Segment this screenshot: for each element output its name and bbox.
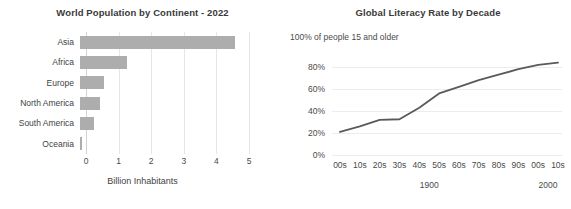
bar-x-tick-label: 4	[214, 156, 219, 166]
line-x-tick-label: 10s	[551, 160, 565, 170]
line-y-tick-label: 0%	[313, 150, 325, 160]
bar-fill	[80, 56, 127, 69]
dual-chart-figure: World Population by Continent - 2022 Asi…	[0, 0, 571, 209]
bar-track	[80, 73, 243, 93]
line-y-tick-label: 40%	[308, 106, 325, 116]
bar-x-tick-label: 1	[116, 156, 121, 166]
bar-fill	[80, 76, 104, 89]
line-chart-panel: Global Literacy Rate by Decade 100% of p…	[285, 0, 571, 209]
line-x-tick-label: 80s	[492, 160, 506, 170]
line-x-tick-label: 90s	[512, 160, 526, 170]
bar-chart-plot-area: AsiaAfricaEuropeNorth AmericaSouth Ameri…	[0, 32, 285, 154]
bar-chart-row: North America	[0, 93, 285, 113]
line-y-tick-label: 60%	[308, 84, 325, 94]
line-x-tick-label: 50s	[432, 160, 446, 170]
bar-x-tick-label: 2	[149, 156, 154, 166]
bar-chart-row: South America	[0, 113, 285, 133]
line-x-tick-label: 00s	[333, 160, 347, 170]
line-chart-y-axis: 80%60%40%20%0%	[285, 45, 329, 155]
line-x-tick-label: 70s	[472, 160, 486, 170]
line-x-tick-label: 10s	[353, 160, 367, 170]
bar-category-label: Europe	[0, 78, 80, 88]
bar-chart-row: Oceania	[0, 134, 285, 154]
bar-chart-x-axis: 012345	[86, 156, 249, 170]
bar-fill	[80, 36, 235, 49]
bar-category-label: Africa	[0, 57, 80, 67]
bar-category-label: Asia	[0, 37, 80, 47]
line-chart-title: Global Literacy Rate by Decade	[285, 7, 571, 18]
line-chart-x-axis: 00s10s20s30s40s50s60s70s80s90s00s10s	[332, 160, 562, 174]
line-x-tick-label: 40s	[412, 160, 426, 170]
line-y-tick-label: 80%	[308, 62, 325, 72]
bar-track	[80, 52, 243, 72]
bar-chart-row: Asia	[0, 32, 285, 52]
bar-track	[80, 113, 243, 133]
bar-track	[80, 32, 243, 52]
line-y-tick-label: 20%	[308, 128, 325, 138]
bar-x-tick-label: 5	[247, 156, 252, 166]
line-x-tick-label: 00s	[531, 160, 545, 170]
bar-chart-row: Africa	[0, 52, 285, 72]
bar-category-label: South America	[0, 118, 80, 128]
line-era-label: 2000	[539, 180, 558, 190]
bar-chart-panel: World Population by Continent - 2022 Asi…	[0, 0, 285, 209]
line-chart-series	[332, 45, 562, 155]
line-gridline	[332, 155, 562, 156]
line-chart-era-labels: 19002000	[332, 180, 562, 194]
line-x-tick-label: 30s	[393, 160, 407, 170]
bar-track	[80, 134, 243, 154]
line-chart-top-axis-label: 100% of people 15 and older	[290, 32, 399, 42]
line-x-tick-label: 20s	[373, 160, 387, 170]
line-x-tick-label: 60s	[452, 160, 466, 170]
bar-category-label: North America	[0, 98, 80, 108]
bar-chart-rows: AsiaAfricaEuropeNorth AmericaSouth Ameri…	[0, 32, 285, 154]
bar-track	[80, 93, 243, 113]
bar-x-tick-label: 0	[84, 156, 89, 166]
bar-category-label: Oceania	[0, 139, 80, 149]
bar-fill	[80, 117, 94, 130]
bar-fill	[80, 97, 100, 110]
bar-chart-title: World Population by Continent - 2022	[0, 7, 285, 18]
line-chart-plot-area	[332, 45, 562, 155]
bar-x-tick-label: 3	[181, 156, 186, 166]
bar-chart-x-axis-label: Billion Inhabitants	[0, 176, 285, 186]
line-era-label: 1900	[420, 180, 439, 190]
bar-fill	[80, 137, 82, 150]
bar-chart-row: Europe	[0, 73, 285, 93]
